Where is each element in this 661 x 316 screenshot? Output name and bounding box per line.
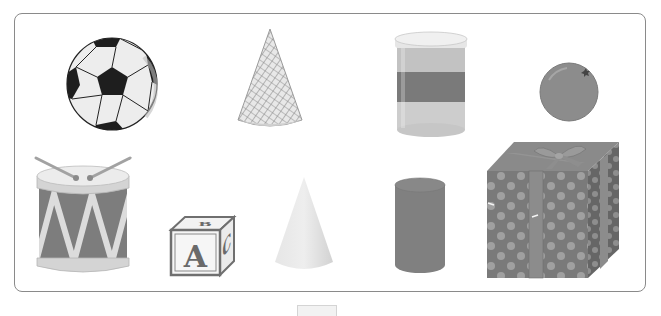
drum <box>34 154 132 278</box>
bottom-tab <box>297 305 337 316</box>
alphabet-block: A B C <box>170 216 236 276</box>
canister <box>396 32 466 138</box>
waffle-cone <box>236 28 304 130</box>
plain-cylinder <box>394 177 446 275</box>
orange <box>539 62 599 122</box>
block-letter-front: A <box>183 239 208 274</box>
gift-box <box>486 141 620 279</box>
soccer-ball <box>66 37 158 131</box>
plain-cone <box>273 176 335 272</box>
block-letter-top: B <box>198 220 212 227</box>
